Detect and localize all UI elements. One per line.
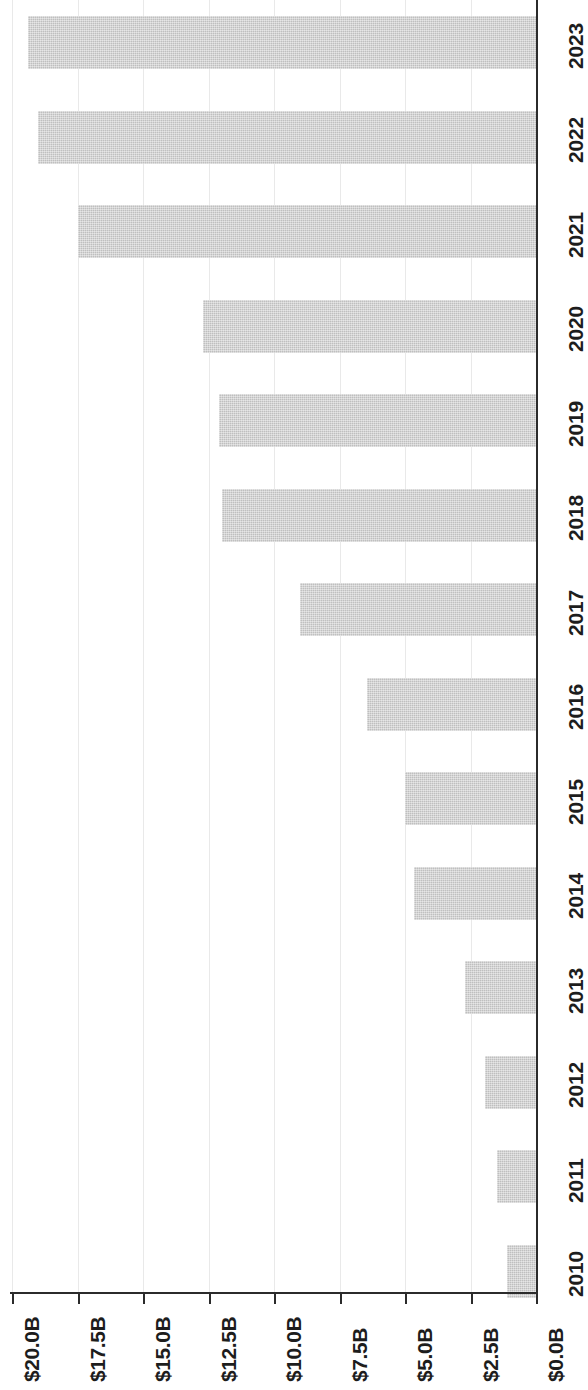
gridline — [274, 0, 275, 1293]
gridline — [78, 0, 79, 1293]
axis-tick — [536, 1294, 538, 1304]
axis-tick — [209, 1294, 211, 1304]
axis-tick — [12, 1294, 14, 1304]
bar-2018[interactable] — [222, 489, 536, 542]
gridline — [209, 0, 210, 1293]
axis-tick — [471, 1294, 473, 1304]
gridline — [471, 0, 472, 1293]
category-tick-label-2021: 2021 — [564, 212, 588, 258]
category-tick-label-2016: 2016 — [564, 684, 588, 730]
gridline — [405, 0, 406, 1293]
axis-tick — [274, 1294, 276, 1304]
category-tick-label-2019: 2019 — [564, 401, 588, 447]
bar-2011[interactable] — [497, 1150, 536, 1203]
value-tick-label: $12.5B — [217, 1317, 241, 1382]
value-axis-baseline — [536, 0, 538, 1293]
bar-2014[interactable] — [414, 867, 536, 920]
bar-2019[interactable] — [219, 394, 536, 447]
gridline — [12, 0, 13, 1293]
plot-area — [0, 0, 537, 1293]
category-tick-label-2012: 2012 — [564, 1062, 588, 1108]
bar-2021[interactable] — [78, 205, 537, 258]
bar-2015[interactable] — [405, 772, 536, 825]
category-tick-label-2023: 2023 — [564, 23, 588, 69]
value-tick-label: $10.0B — [282, 1317, 306, 1382]
value-tick-label: $17.5B — [86, 1317, 110, 1382]
axis-tick — [340, 1294, 342, 1304]
gridline — [340, 0, 341, 1293]
category-tick-label-2013: 2013 — [564, 968, 588, 1014]
value-tick-label: $15.0B — [151, 1317, 175, 1382]
bar-2010[interactable] — [507, 1245, 536, 1298]
value-tick-label: $2.5B — [479, 1328, 503, 1382]
category-tick-label-2020: 2020 — [564, 306, 588, 352]
category-tick-label-2011: 2011 — [564, 1158, 588, 1203]
bar-2022[interactable] — [38, 111, 536, 164]
axis-tick — [78, 1294, 80, 1304]
category-tick-label-2015: 2015 — [564, 779, 588, 825]
value-tick-label: $20.0B — [20, 1317, 44, 1382]
bar-2013[interactable] — [465, 961, 536, 1014]
category-tick-label-2022: 2022 — [564, 117, 588, 163]
bar-2016[interactable] — [367, 678, 536, 731]
bar-2017[interactable] — [300, 583, 536, 636]
category-tick-label-2018: 2018 — [564, 495, 588, 541]
value-tick-label: $5.0B — [413, 1328, 437, 1382]
axis-tick — [143, 1294, 145, 1304]
bar-2020[interactable] — [203, 300, 536, 353]
bar-2023[interactable] — [28, 16, 536, 69]
axis-tick — [405, 1294, 407, 1304]
bar-2012[interactable] — [485, 1056, 536, 1109]
category-tick-label-2014: 2014 — [564, 873, 588, 919]
value-tick-label: $0.0B — [544, 1328, 568, 1382]
category-tick-label-2017: 2017 — [564, 590, 588, 636]
category-tick-label-2010: 2010 — [564, 1251, 588, 1297]
value-tick-label: $7.5B — [348, 1328, 372, 1382]
gridline — [143, 0, 144, 1293]
